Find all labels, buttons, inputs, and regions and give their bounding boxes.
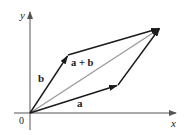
vector-a-translated bbox=[68, 29, 159, 56]
sum-diagonal-vector bbox=[30, 29, 159, 113]
vector-a-label: a bbox=[77, 97, 83, 109]
vector-sum-label: a + b bbox=[71, 57, 93, 68]
vector-addition-diagram: y x 0 b a + b a bbox=[0, 0, 186, 135]
y-axis-label: y bbox=[19, 9, 25, 21]
vector-b-label: b bbox=[38, 72, 44, 84]
vector-b-translated bbox=[118, 29, 160, 86]
vector-a bbox=[30, 86, 117, 114]
vector-b bbox=[30, 56, 68, 113]
origin-label: 0 bbox=[19, 115, 24, 126]
x-axis-label: x bbox=[170, 117, 176, 129]
